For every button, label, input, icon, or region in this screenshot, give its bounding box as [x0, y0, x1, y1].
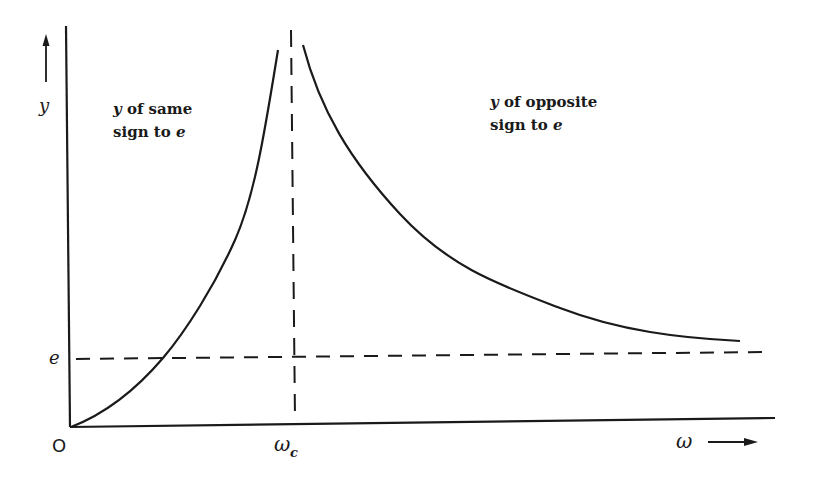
- resonance-diagram: y O e ω ω c y of same sign to e y of opp…: [0, 0, 814, 484]
- y-axis: [66, 26, 70, 427]
- y-axis-label: y: [38, 95, 50, 116]
- svg-text:sign to e: sign to e: [113, 123, 185, 141]
- x-axis-label: ω: [676, 429, 692, 453]
- svg-text:y of same: y of same: [112, 100, 192, 118]
- svg-text:c: c: [290, 445, 298, 460]
- curve-above-critical: [303, 45, 740, 341]
- y-arrow-icon: [43, 34, 50, 82]
- right-region-label: y of opposite sign to e: [489, 93, 597, 134]
- x-arrow-icon: [708, 438, 758, 446]
- svg-text:ω: ω: [274, 432, 290, 456]
- e-reference-line: [76, 352, 762, 359]
- left-region-label: y of same sign to e: [112, 100, 192, 141]
- svg-text:sign to e: sign to e: [490, 116, 562, 134]
- origin-label: O: [52, 435, 66, 456]
- critical-frequency-label: ω c: [274, 432, 298, 460]
- svg-text:y of opposite: y of opposite: [489, 93, 597, 111]
- e-label: e: [49, 347, 60, 368]
- critical-frequency-line: [291, 30, 295, 419]
- x-axis: [70, 418, 775, 427]
